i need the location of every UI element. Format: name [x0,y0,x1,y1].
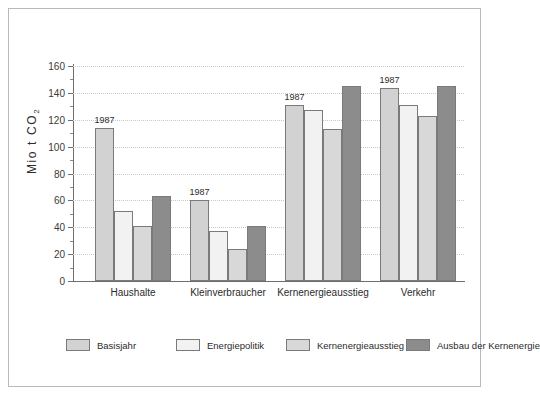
y-axis-tick [68,200,73,201]
y-axis-tick [68,120,73,121]
bar-annotation: 1987 [284,92,304,102]
x-axis-category-label: Kernenergieausstieg [277,287,369,298]
bar[interactable] [380,88,399,282]
legend-label: Ausbau der Kernenergie [437,340,540,351]
legend-label: Basisjahr [97,340,136,351]
bar[interactable] [190,200,209,281]
bar[interactable] [114,211,133,281]
y-axis-minor-tick [70,241,73,242]
x-axis-category-label: Kleinverbraucher [190,287,266,298]
y-axis-minor-tick [70,187,73,188]
y-axis-tick-label: 160 [48,61,65,72]
legend-label: Kernenergieausstieg [317,340,404,351]
y-axis-tick [68,147,73,148]
plot-area: 0204060801001201401601987198719871987 [73,66,464,281]
bar-group [190,66,266,281]
y-axis-tick-label: 40 [54,222,65,233]
bar[interactable] [152,196,171,281]
y-axis-minor-tick [70,106,73,107]
chart-frame: Mio t CO2 020406080100120140160198719871… [8,8,481,387]
y-axis-tick-label: 80 [54,168,65,179]
bar[interactable] [323,129,342,281]
y-axis-minor-tick [70,268,73,269]
legend-item[interactable]: Kernenergieausstieg [286,339,404,351]
legend-swatch [66,339,90,351]
y-axis-tick-label: 60 [54,195,65,206]
y-axis-tick [68,227,73,228]
bar[interactable] [95,128,114,281]
legend-swatch [286,339,310,351]
bar[interactable] [342,86,361,281]
bar[interactable] [399,105,418,281]
y-axis-title-subscript: 2 [32,109,41,113]
bar[interactable] [285,105,304,281]
y-axis-minor-tick [70,214,73,215]
bar[interactable] [304,110,323,281]
bar-annotation: 1987 [189,187,209,197]
legend-item[interactable]: Basisjahr [66,339,136,351]
legend-item[interactable]: Energiepolitik [176,339,264,351]
y-axis-minor-tick [70,79,73,80]
y-axis-tick-label: 0 [59,276,65,287]
y-axis-title: Mio t CO2 [25,109,41,174]
x-axis-category-label: Verkehr [401,287,435,298]
y-axis-tick [68,254,73,255]
legend-label: Energiepolitik [207,340,264,351]
y-axis-tick [68,66,73,67]
y-axis-minor-tick [70,133,73,134]
legend-swatch [406,339,430,351]
bar[interactable] [418,116,437,281]
bar[interactable] [437,86,456,281]
y-axis-tick-label: 120 [48,114,65,125]
bar[interactable] [133,226,152,281]
y-axis-tick [68,281,73,282]
y-axis-tick [68,174,73,175]
x-axis-line [73,281,465,282]
legend-item[interactable]: Ausbau der Kernenergie [406,339,540,351]
bar[interactable] [228,249,247,281]
x-axis-category-label: Haushalte [110,287,155,298]
y-axis-tick-label: 100 [48,141,65,152]
bar-group [95,66,171,281]
y-axis-title-text: Mio t CO [25,114,39,174]
bar[interactable] [247,226,266,281]
bar-annotation: 1987 [94,115,114,125]
chart-legend: BasisjahrEnergiepolitikKernenergieaussti… [66,339,466,357]
y-axis-minor-tick [70,160,73,161]
bar[interactable] [209,231,228,281]
bar-group [380,66,456,281]
legend-swatch [176,339,200,351]
bar-annotation: 1987 [379,75,399,85]
y-axis-tick-label: 20 [54,249,65,260]
y-axis-tick [68,93,73,94]
y-axis-tick-label: 140 [48,87,65,98]
